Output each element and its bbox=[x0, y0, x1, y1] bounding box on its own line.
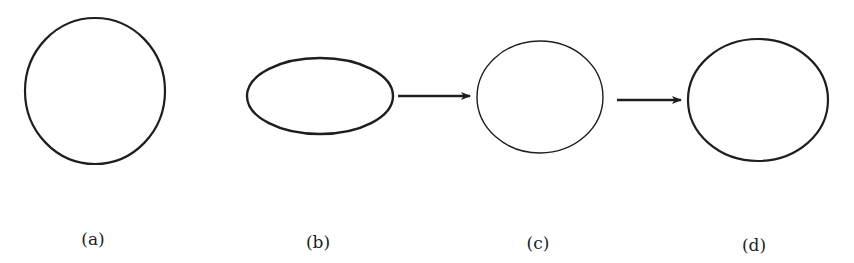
ellipse-b bbox=[247, 58, 393, 134]
circle-a bbox=[25, 18, 165, 164]
panel-b: (b) bbox=[247, 58, 393, 252]
panel-a: (a) bbox=[25, 18, 165, 249]
label-a: (a) bbox=[81, 229, 104, 249]
shape-transformation-diagram: (a) (b) (c) (d) bbox=[0, 0, 854, 263]
ellipse-d bbox=[688, 39, 828, 161]
label-b: (b) bbox=[306, 232, 330, 252]
ellipse-c bbox=[477, 41, 603, 153]
panel-d: (d) bbox=[688, 39, 828, 255]
panel-c: (c) bbox=[477, 41, 603, 253]
label-c: (c) bbox=[527, 233, 550, 253]
label-d: (d) bbox=[742, 235, 766, 255]
